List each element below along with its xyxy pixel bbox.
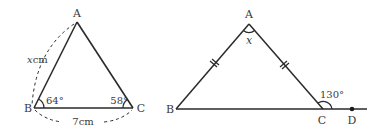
side-ab <box>176 24 249 109</box>
exterior-angle-label-c: 130° <box>320 89 344 100</box>
side-label-ab: xcm <box>27 54 48 65</box>
angle-label-c: 58° <box>110 95 128 106</box>
angle-arc-a <box>244 31 255 33</box>
dimension-arc-bc-left <box>35 110 62 122</box>
dimension-arc-bc-right <box>104 110 132 122</box>
right-triangle-figure: A B C D x 130° <box>166 8 367 127</box>
point-d <box>350 107 355 112</box>
left-triangle-figure: A B C 64° 58° xcm 7cm <box>24 7 145 127</box>
angle-label-a: x <box>246 34 253 47</box>
vertex-label-b: B <box>166 103 174 116</box>
geometry-diagram: A B C 64° 58° xcm 7cm <box>0 0 384 131</box>
angle-label-b: 64° <box>46 95 64 106</box>
vertex-label-a: A <box>244 8 254 21</box>
side-label-bc: 7cm <box>72 116 94 127</box>
side-ac <box>249 24 323 109</box>
vertex-label-c: C <box>137 102 145 115</box>
vertex-label-a: A <box>72 7 82 20</box>
vertex-label-d: D <box>348 114 357 127</box>
vertex-label-b: B <box>24 102 32 115</box>
vertex-label-c: C <box>318 114 326 127</box>
side-label-ab-unit: cm <box>33 54 49 65</box>
angle-arc-b <box>39 99 45 108</box>
